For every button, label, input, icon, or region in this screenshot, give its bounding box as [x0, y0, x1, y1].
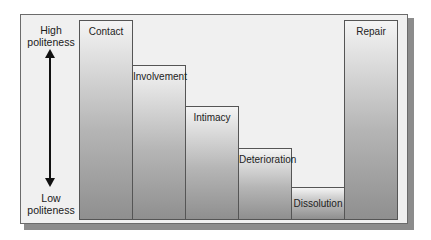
stage-label: Deterioration — [239, 154, 291, 165]
high-politeness-label: High politeness — [22, 24, 80, 48]
low-label-line1: Low — [22, 192, 80, 204]
low-politeness-label: Low politeness — [22, 192, 80, 216]
low-label-line2: politeness — [22, 204, 80, 216]
stage-bar-involvement: Involvement — [132, 65, 186, 220]
stage-label: Contact — [80, 26, 132, 37]
stage-label: Intimacy — [186, 112, 238, 123]
high-label-line2: politeness — [22, 36, 80, 48]
stage-label: Dissolution — [292, 198, 344, 209]
politeness-axis-line — [49, 56, 51, 179]
arrow-down-icon — [45, 178, 55, 187]
high-label-line1: High — [22, 24, 80, 36]
stage-bar-dissolution: Dissolution — [291, 187, 345, 220]
stage-label: Repair — [345, 26, 397, 37]
stage-bar-repair: Repair — [344, 20, 398, 220]
stage-bar-contact: Contact — [79, 20, 133, 220]
stage-label: Involvement — [133, 71, 185, 82]
stage-bar-deterioration: Deterioration — [238, 148, 292, 220]
stage-bar-intimacy: Intimacy — [185, 106, 239, 220]
